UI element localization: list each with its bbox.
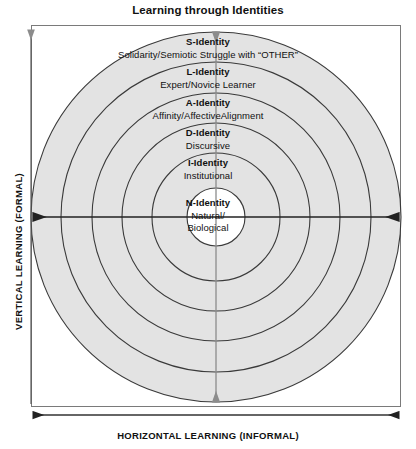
vertical-axis-label: VERTICAL LEARNING (FORMAL) <box>13 162 24 342</box>
diagram-vectors <box>0 0 416 449</box>
diagram-canvas: Learning through Identities <box>0 0 416 449</box>
horizontal-axis-label: HORIZONTAL LEARNING (INFORMAL) <box>0 430 416 441</box>
